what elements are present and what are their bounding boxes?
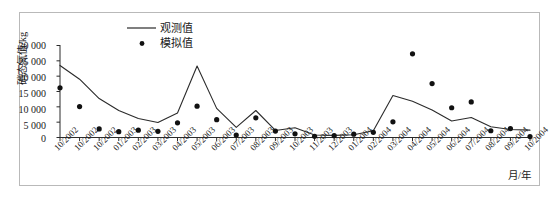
- data-point-marker: [390, 119, 395, 124]
- data-point-marker: [410, 51, 415, 56]
- data-point-marker: [175, 120, 180, 125]
- axes-group: [57, 45, 533, 141]
- figure-container: 硝态氮值/kg 30 000 25 000 20 000 15 000 10 0…: [0, 0, 559, 197]
- series-markers-simulated: [57, 51, 532, 139]
- data-point-marker: [194, 104, 199, 109]
- data-point-marker: [488, 128, 493, 133]
- data-point-marker: [97, 126, 102, 131]
- data-point-marker: [116, 129, 121, 134]
- data-point-marker: [77, 104, 82, 109]
- data-point-marker: [253, 115, 258, 120]
- data-point-marker: [292, 131, 297, 136]
- data-point-marker: [508, 126, 513, 131]
- series-line-observed: [60, 65, 530, 135]
- data-point-marker: [155, 129, 160, 134]
- data-point-marker: [273, 128, 278, 133]
- data-point-marker: [527, 134, 532, 139]
- data-point-marker: [57, 85, 62, 90]
- data-point-marker: [351, 132, 356, 137]
- data-point-marker: [469, 99, 474, 104]
- data-point-marker: [429, 81, 434, 86]
- data-point-marker: [449, 105, 454, 110]
- legend-glyph-group: [127, 28, 156, 46]
- data-point-marker: [234, 132, 239, 137]
- data-point-marker: [214, 117, 219, 122]
- chart-plot: [0, 0, 559, 197]
- data-point-marker: [312, 134, 317, 139]
- data-point-marker: [371, 130, 376, 135]
- data-point-marker: [332, 133, 337, 138]
- data-point-marker: [136, 128, 141, 133]
